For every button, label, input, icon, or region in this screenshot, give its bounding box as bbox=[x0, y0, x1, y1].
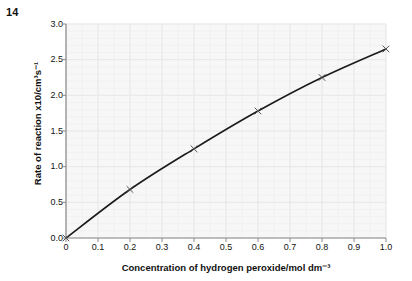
rate-of-reaction-chart: Rate of reaction x10/cm³s⁻¹ Concentratio… bbox=[0, 0, 412, 281]
plot-area bbox=[0, 0, 412, 281]
